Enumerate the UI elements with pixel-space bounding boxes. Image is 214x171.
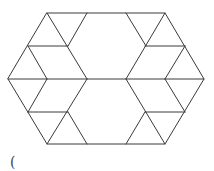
segment-line <box>68 13 87 46</box>
segment-line <box>126 112 145 144</box>
segment-line <box>68 112 87 144</box>
segment-line <box>28 46 47 79</box>
segment-line <box>165 46 185 79</box>
segment-line <box>28 79 47 112</box>
hexagon-figure <box>0 0 214 171</box>
caption-label: ( <box>10 154 15 170</box>
segment-line <box>126 13 146 46</box>
inner-segments <box>8 13 204 144</box>
segment-line <box>165 79 185 112</box>
